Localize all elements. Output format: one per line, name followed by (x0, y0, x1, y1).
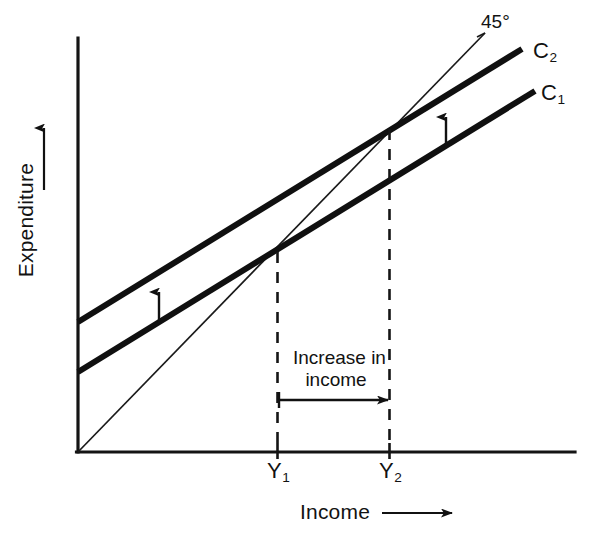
curve-label-c2-subscript: 2 (549, 50, 557, 65)
forty-five-degree-label: 45° (481, 11, 510, 33)
x-axis-label: Income (300, 500, 370, 524)
curve-label-c2: C2 (533, 38, 557, 65)
curve-label-c1: C1 (541, 80, 565, 107)
x-tick-label-y2: Y2 (379, 458, 402, 485)
forty-five-degree-line (78, 33, 485, 452)
x-tick-label-y2-subscript: 2 (394, 470, 402, 485)
chart-canvas (0, 0, 601, 541)
c2-line (78, 49, 522, 322)
curve-label-c1-base: C (541, 80, 557, 105)
curve-label-c2-base: C (533, 38, 549, 63)
c1-line-group (78, 91, 535, 372)
x-tick-label-y1-base: Y (267, 458, 282, 483)
forty-five-degree-line-group (78, 33, 485, 452)
increase-annotation-line-1: Increase in (293, 347, 379, 369)
consumption-function-figure: Expenditure Income 45° C2 C1 Y1 Y2 Incre… (0, 0, 601, 541)
x-tick-label-y2-base: Y (379, 458, 394, 483)
increase-span-arrow-group (279, 392, 388, 408)
curve-label-c1-subscript: 1 (557, 92, 565, 107)
x-tick-label-y1-subscript: 1 (282, 470, 290, 485)
increase-in-income-annotation: Increase inincome (293, 347, 379, 391)
c2-line-group (78, 49, 522, 322)
increase-annotation-line-2: income (293, 369, 379, 391)
c1-line (78, 91, 535, 372)
y-axis-label: Expenditure (14, 140, 38, 300)
x-tick-label-y1: Y1 (267, 458, 290, 485)
